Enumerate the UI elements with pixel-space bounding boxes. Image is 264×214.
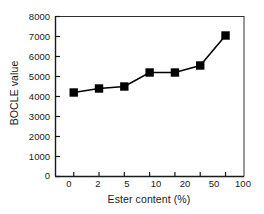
plot-area bbox=[0, 0, 264, 214]
data-point-marker bbox=[196, 61, 204, 69]
series-markers bbox=[70, 31, 230, 96]
data-point-marker bbox=[171, 68, 179, 76]
axes bbox=[55, 16, 244, 177]
data-point-marker bbox=[221, 31, 229, 39]
data-point-marker bbox=[70, 88, 78, 96]
chart-container: BOCLE value 8000 7000 6000 5000 4000 300… bbox=[0, 0, 264, 214]
data-point-marker bbox=[145, 68, 153, 76]
data-point-marker bbox=[95, 84, 103, 92]
data-point-marker bbox=[120, 82, 128, 90]
